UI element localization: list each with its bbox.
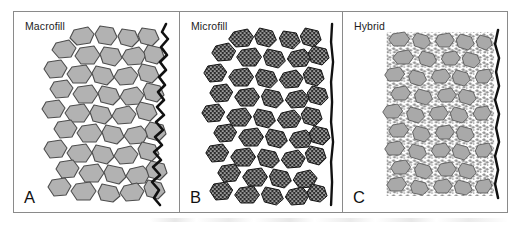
panel-letter-c: C: [353, 188, 365, 207]
figure-root: Macrofill A: [0, 0, 518, 225]
panel-macrofill-illustration: [14, 12, 179, 212]
hybrid-surface-line: [495, 30, 499, 198]
panel-letter-a: A: [24, 188, 35, 207]
panel-letter-b: B: [190, 188, 201, 207]
macrofill-particles: [42, 26, 167, 202]
panel-microfill-illustration: [180, 12, 342, 212]
panel-title-macrofill: Macrofill: [25, 20, 65, 32]
panel-microfill: Microfill B: [179, 12, 342, 212]
microfill-surface-line: [331, 24, 333, 205]
panel-title-hybrid: Hybrid: [354, 20, 385, 32]
panel-hybrid-illustration: [343, 12, 507, 212]
panel-macrofill: Macrofill A: [14, 12, 179, 212]
panel-hybrid: Hybrid C: [342, 12, 507, 212]
microfill-particles: [202, 28, 330, 205]
bottom-caption-smudge: [150, 218, 508, 222]
figure-frame: Macrofill A: [13, 11, 508, 213]
panel-title-microfill: Microfill: [191, 20, 227, 32]
